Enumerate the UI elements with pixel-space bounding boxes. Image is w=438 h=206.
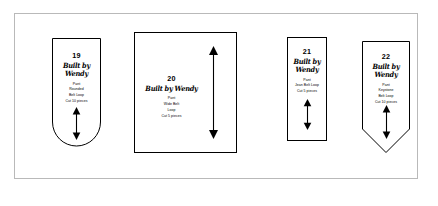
piece-22-name-line-1: Keystone <box>362 88 410 92</box>
pattern-sheet: 19 Built by Wendy Pant Rounded Belt Loop… <box>14 13 418 179</box>
piece-19-grainline-arrow-icon <box>71 107 82 140</box>
pattern-piece-21[interactable]: 21 Built by Wendy Pant Jean Belt Loop Cu… <box>287 37 327 141</box>
piece-19-number: 19 <box>52 51 101 60</box>
piece-19-brand-logo: Built by Wendy <box>52 62 101 80</box>
piece-21-number: 21 <box>287 47 327 56</box>
piece-22-name-line-2: Belt Loop <box>362 94 410 98</box>
piece-21-name-line-1: Jean Belt Loop <box>287 83 327 87</box>
piece-22-brand-logo: Built by Wendy <box>362 63 410 81</box>
piece-21-description: Pant Jean Belt Loop Cut 5 pieces <box>287 78 327 94</box>
piece-22-cut-quantity: Cut 10 pieces <box>362 100 410 104</box>
piece-19-label: 19 Built by Wendy Pant Rounded Belt Loop… <box>52 51 101 104</box>
pattern-piece-19[interactable]: 19 Built by Wendy Pant Rounded Belt Loop… <box>52 38 101 147</box>
pattern-piece-20[interactable]: 20 Built by Wendy Pant Wide Belt Loop Cu… <box>134 32 237 153</box>
piece-19-description: Pant Rounded Belt Loop Cut 10 pieces <box>52 82 101 104</box>
piece-19-name-line-2: Belt Loop <box>52 93 101 97</box>
piece-22-garment: Pant <box>362 83 410 87</box>
piece-21-grainline-arrow-icon <box>302 99 313 130</box>
pattern-piece-22[interactable]: 22 Built by Wendy Pant Keystone Belt Loo… <box>362 41 410 153</box>
piece-21-garment: Pant <box>287 78 327 82</box>
piece-21-brand-logo: Built by Wendy <box>287 58 327 76</box>
piece-21-cut-quantity: Cut 5 pieces <box>287 89 327 93</box>
piece-19-garment: Pant <box>52 82 101 86</box>
piece-19-cut-quantity: Cut 10 pieces <box>52 99 101 103</box>
piece-22-grainline-arrow-icon <box>381 105 392 139</box>
piece-21-label: 21 Built by Wendy Pant Jean Belt Loop Cu… <box>287 47 327 94</box>
piece-22-number: 22 <box>362 52 410 61</box>
piece-19-name-line-1: Rounded <box>52 87 101 91</box>
piece-22-description: Pant Keystone Belt Loop Cut 10 pieces <box>362 83 410 105</box>
piece-20-grainline-arrow-icon <box>207 46 220 139</box>
piece-22-label: 22 Built by Wendy Pant Keystone Belt Loo… <box>362 52 410 105</box>
